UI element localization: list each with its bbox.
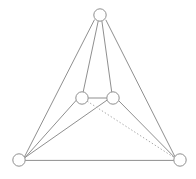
edge-apex-midright xyxy=(102,21,112,92)
node-mid-left xyxy=(76,92,88,104)
edge-apex-midleft xyxy=(83,21,98,92)
node-bottom-left xyxy=(13,154,25,166)
node-apex xyxy=(94,9,106,21)
graph-figure xyxy=(0,0,196,179)
edge-midright-bottomright xyxy=(119,101,175,158)
node-mid-right xyxy=(107,92,119,104)
edge-midright-bottomleft xyxy=(25,100,107,158)
edge-layer xyxy=(24,20,175,161)
node-bottom-right xyxy=(174,154,186,166)
edge-midleft-bottomleft xyxy=(25,100,77,158)
graph-canvas xyxy=(0,0,196,179)
